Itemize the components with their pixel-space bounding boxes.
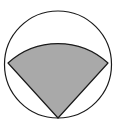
geometry-diagram — [0, 0, 115, 126]
shaded-sector — [8, 44, 108, 118]
